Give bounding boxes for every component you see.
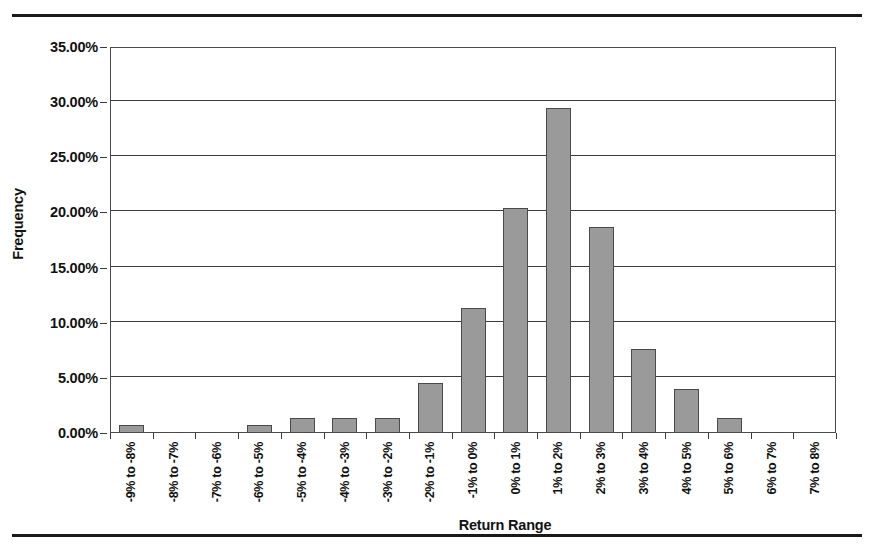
x-axis-tick-mark — [452, 433, 453, 439]
y-axis-tick-label: 25.00% — [50, 149, 98, 165]
x-axis-tick-label: 0% to 1% — [509, 442, 523, 494]
x-axis-tick-label: -5% to -4% — [295, 442, 309, 502]
x-axis-tick-mark — [281, 433, 282, 439]
x-axis-title: Return Range — [0, 517, 874, 533]
bar — [589, 227, 614, 433]
x-axis-tick-mark — [153, 433, 154, 439]
x-axis-tick-mark — [793, 433, 794, 439]
x-axis-tick-label: -8% to -7% — [167, 442, 181, 502]
bar — [247, 425, 272, 433]
y-axis-tick-mark — [100, 268, 107, 269]
y-axis-tick-mark — [100, 212, 107, 213]
y-axis-tick-label: 10.00% — [50, 315, 98, 331]
bar — [674, 389, 699, 433]
x-axis-tick-label: -4% to -3% — [338, 442, 352, 502]
x-axis-tick-mark — [110, 433, 111, 439]
y-axis-tick-label: 15.00% — [50, 260, 98, 276]
x-axis-tick-mark — [580, 433, 581, 439]
y-axis-title: Frequency — [10, 144, 26, 304]
x-axis-tick-mark — [494, 433, 495, 439]
x-axis-title-text: Return Range — [459, 517, 552, 533]
x-axis-tick-mark — [622, 433, 623, 439]
x-axis-tick-mark — [238, 433, 239, 439]
y-axis-tick-label: 5.00% — [58, 370, 98, 386]
y-axis-tick-mark — [100, 157, 107, 158]
x-axis-tick-mark — [751, 433, 752, 439]
top-horizontal-rule — [12, 14, 862, 17]
bar — [461, 308, 486, 433]
x-axis-tick-mark — [195, 433, 196, 439]
bar — [418, 383, 443, 433]
x-axis-tick-label: 7% to 8% — [808, 442, 822, 494]
x-axis-tick-mark — [409, 433, 410, 439]
bar — [375, 418, 400, 433]
y-axis-tick-mark — [100, 433, 107, 434]
x-axis-tick-mark — [537, 433, 538, 439]
bar — [119, 425, 144, 433]
bar — [332, 418, 357, 433]
y-axis-tick-label: 0.00% — [58, 425, 98, 441]
histogram-chart: 0.00%5.00%10.00%15.00%20.00%25.00%30.00%… — [0, 20, 874, 532]
x-axis-tick-label: 2% to 3% — [594, 442, 608, 494]
x-axis-tick-label: -2% to -1% — [423, 442, 437, 502]
y-axis-tick-label: 20.00% — [50, 204, 98, 220]
x-axis-tick-label: -1% to 0% — [466, 442, 480, 498]
x-axis-tick-label: -3% to -2% — [381, 442, 395, 502]
bars-layer — [110, 47, 836, 433]
x-axis-tick-label: 6% to 7% — [765, 442, 779, 494]
x-axis-tick-mark — [708, 433, 709, 439]
bar — [503, 208, 528, 433]
x-axis-tick-label: 4% to 5% — [680, 442, 694, 494]
x-axis-tick-label: 3% to 4% — [637, 442, 651, 494]
x-axis-tick-mark — [836, 433, 837, 439]
bar — [546, 108, 571, 433]
y-axis-tick-mark — [100, 102, 107, 103]
x-axis-tick-mark — [324, 433, 325, 439]
y-axis-tick-mark — [100, 323, 107, 324]
x-axis-tick-label: 1% to 2% — [551, 442, 565, 494]
x-axis-tick-label: 5% to 6% — [722, 442, 736, 494]
bar — [631, 349, 656, 433]
y-axis-tick-mark — [100, 378, 107, 379]
x-axis-tick-mark — [665, 433, 666, 439]
x-axis-tick-label: -9% to -8% — [124, 442, 138, 502]
y-axis-tick-mark — [100, 47, 107, 48]
x-axis-tick-label: -6% to -5% — [252, 442, 266, 502]
x-axis-tick-label: -7% to -6% — [210, 442, 224, 502]
bar — [290, 418, 315, 433]
y-axis-tick-label: 30.00% — [50, 94, 98, 110]
y-axis-tick-label: 35.00% — [50, 39, 98, 55]
x-axis-tick-mark — [366, 433, 367, 439]
bar — [717, 418, 742, 433]
bottom-horizontal-rule — [12, 534, 862, 537]
